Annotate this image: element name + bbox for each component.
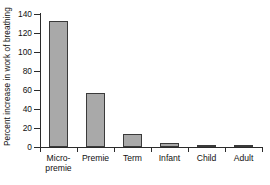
plot-area — [40, 14, 262, 147]
bar-infant — [160, 143, 179, 147]
x-axis-tick-mark — [40, 148, 41, 152]
y-axis-tick-label: 40 — [6, 105, 32, 113]
x-axis-tick-mark — [262, 148, 263, 152]
bar-child — [197, 145, 216, 147]
y-axis-tick-label: 80 — [6, 67, 32, 75]
bar-chart-figure: Percent increase in work of breathing 02… — [0, 0, 270, 185]
x-axis-label-adult: Adult — [222, 154, 265, 164]
bar-micro-premie — [49, 21, 68, 147]
y-axis-tick-label: 120 — [6, 29, 32, 37]
x-axis-tick-mark — [114, 148, 115, 152]
y-axis-tick-label: 60 — [6, 86, 32, 94]
x-axis-tick-mark — [225, 148, 226, 152]
bar-adult — [234, 145, 253, 147]
x-axis-tick-mark — [151, 148, 152, 152]
x-axis-tick-mark — [188, 148, 189, 152]
bar-premie — [86, 93, 105, 147]
y-axis-tick-label: 20 — [6, 124, 32, 132]
y-axis-tick-label: 140 — [6, 10, 32, 18]
y-axis-tick-label: 0 — [6, 143, 32, 151]
bar-term — [123, 134, 142, 147]
x-axis-tick-mark — [77, 148, 78, 152]
y-axis-tick-label: 100 — [6, 48, 32, 56]
